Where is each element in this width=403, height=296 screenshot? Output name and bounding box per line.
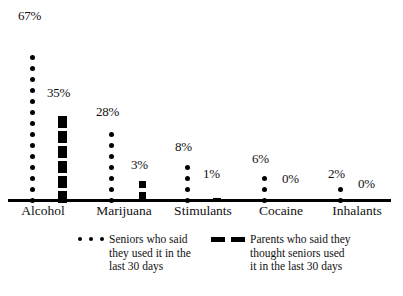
x-axis-line [8,199,391,202]
dot-mark [30,66,35,71]
dot-mark [30,88,35,93]
dot-mark [30,143,35,148]
dot-mark [30,154,35,159]
axis-label-inhalants: Inhalants [332,204,382,218]
plot-area: 67%35%28%3%8%1%6%0%2%0% [0,0,403,203]
dash-mark [58,131,67,143]
value-label-inhalants-seniors: 2% [328,167,345,180]
legend-dash-icon [211,237,225,242]
value-label-alcohol-seniors: 67% [18,9,41,22]
value-label-alcohol-parents: 35% [47,86,70,99]
marks-marijuana-seniors [109,132,114,203]
dash-mark [139,192,146,199]
dot-mark [109,154,114,159]
dot-mark [109,143,114,148]
value-label-stimulants-seniors: 8% [175,140,192,153]
dot-mark [109,165,114,170]
value-label-stimulants-parents: 1% [203,167,220,180]
axis-label-marijuana: Marijuana [96,204,151,218]
legend-dot-icon [100,237,104,241]
dash-mark [58,176,67,188]
dot-mark [30,55,35,60]
dot-mark [30,176,35,181]
dot-mark [30,110,35,115]
dot-mark [185,187,190,192]
x-axis-labels: AlcoholMarijuanaStimulantsCocaineInhalan… [0,204,403,224]
legend-swatch-seniors [78,233,104,241]
chart-legend: Seniors who said they used it in the las… [0,231,403,293]
axis-label-cocaine: Cocaine [259,204,303,218]
axis-label-stimulants: Stimulants [174,204,232,218]
legend-entry-seniors: Seniors who said they used it in the las… [78,233,191,274]
dot-mark [109,176,114,181]
dash-mark [58,116,67,128]
dot-mark [30,132,35,137]
value-label-marijuana-seniors: 28% [96,105,119,118]
dash-mark [139,181,146,188]
axis-label-alcohol: Alcohol [21,204,65,218]
legend-swatch-parents [211,233,245,242]
dash-mark [58,161,67,173]
dot-mark [30,121,35,126]
legend-label-parents: Parents who said they thought seniors us… [250,233,351,274]
dot-mark [185,165,190,170]
dot-mark [109,187,114,192]
dot-mark [30,187,35,192]
dot-mark [109,132,114,137]
dash-mark [58,146,67,158]
dot-dash-pictogram-chart: 67%35%28%3%8%1%6%0%2%0% AlcoholMarijuana… [0,0,403,296]
legend-dash-icon [231,237,245,242]
category-group-inhalants: 2%0% [322,0,400,203]
dot-mark [30,99,35,104]
legend-dot-icon [89,237,93,241]
value-label-cocaine-seniors: 6% [252,152,269,165]
marks-stimulants-seniors [185,165,190,203]
marks-alcohol-parents [58,116,67,203]
dot-mark [262,176,267,181]
dot-mark [30,165,35,170]
legend-entry-parents: Parents who said they thought seniors us… [211,233,351,274]
value-label-inhalants-parents: 0% [358,177,375,190]
category-group-cocaine: 6%0% [248,0,326,203]
category-group-alcohol: 67%35% [10,0,88,203]
value-label-marijuana-parents: 3% [131,158,148,171]
legend-dot-icon [78,237,82,241]
dot-mark [338,187,343,192]
legend-label-seniors: Seniors who said they used it in the las… [109,233,191,274]
dot-mark [30,77,35,82]
marks-alcohol-seniors [30,55,35,203]
dot-mark [185,176,190,181]
category-group-stimulants: 8%1% [170,0,248,203]
category-group-marijuana: 28%3% [90,0,168,203]
value-label-cocaine-parents: 0% [282,172,299,185]
dot-mark [262,187,267,192]
